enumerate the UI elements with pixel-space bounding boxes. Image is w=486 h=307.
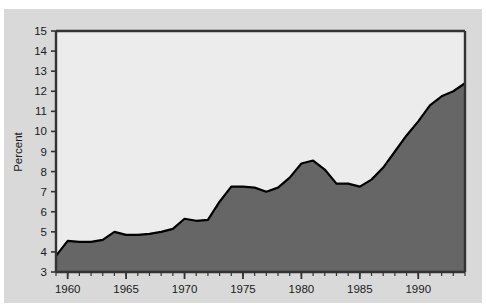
x-tick-label-1990: 1990	[405, 283, 431, 295]
y-axis-title: Percent	[12, 131, 24, 171]
area-chart-svg: 3456789101112131415 19601965197019751980…	[4, 9, 482, 303]
x-tick-label-1970: 1970	[172, 283, 198, 295]
y-tick-label-13: 13	[34, 65, 47, 77]
y-tick-label-6: 6	[41, 206, 47, 218]
figure-panel: 3456789101112131415 19601965197019751980…	[4, 9, 482, 303]
y-tick-label-7: 7	[41, 186, 47, 198]
y-tick-label-10: 10	[34, 125, 47, 137]
y-tick-label-3: 3	[41, 266, 47, 278]
y-tick-label-12: 12	[34, 85, 47, 97]
y-tick-label-11: 11	[35, 105, 47, 117]
x-tick-label-1960: 1960	[55, 283, 81, 295]
x-tick-label-1975: 1975	[230, 283, 256, 295]
y-tick-label-5: 5	[41, 226, 47, 238]
chart-title-clipped	[0, 0, 486, 9]
y-tick-label-9: 9	[41, 146, 47, 158]
y-tick-label-8: 8	[41, 166, 47, 178]
y-tick-label-14: 14	[34, 45, 47, 57]
x-tick-label-1965: 1965	[113, 283, 139, 295]
x-tick-label-1980: 1980	[289, 283, 315, 295]
y-tick-label-15: 15	[34, 25, 47, 37]
x-tick-label-1985: 1985	[347, 283, 373, 295]
chart-figure: 3456789101112131415 19601965197019751980…	[0, 0, 486, 307]
y-tick-label-4: 4	[41, 246, 48, 258]
